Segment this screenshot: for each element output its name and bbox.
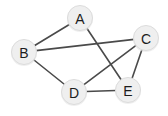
graph-edge-a-e: [87, 28, 122, 80]
node-layer: ABCDE: [11, 6, 159, 107]
graph-canvas: ABCDE: [0, 0, 168, 116]
graph-node-b[interactable]: B: [11, 40, 37, 67]
graph-node-d[interactable]: D: [61, 80, 87, 107]
graph-node-e[interactable]: E: [115, 78, 141, 105]
node-label: A: [75, 11, 85, 27]
graph-edge-b-c: [36, 39, 134, 50]
graph-edge-c-e: [132, 49, 142, 78]
graph-node-a[interactable]: A: [67, 6, 93, 33]
node-label: D: [69, 85, 79, 101]
graph-edge-d-e: [86, 90, 116, 91]
node-label: E: [123, 83, 132, 99]
node-label: C: [141, 31, 151, 47]
node-label: B: [19, 45, 28, 61]
graph-node-c[interactable]: C: [133, 26, 159, 53]
graph-edge-b-d: [33, 60, 64, 85]
graph-edge-a-b: [34, 24, 69, 46]
graph-figure: ABCDE: [0, 0, 168, 116]
